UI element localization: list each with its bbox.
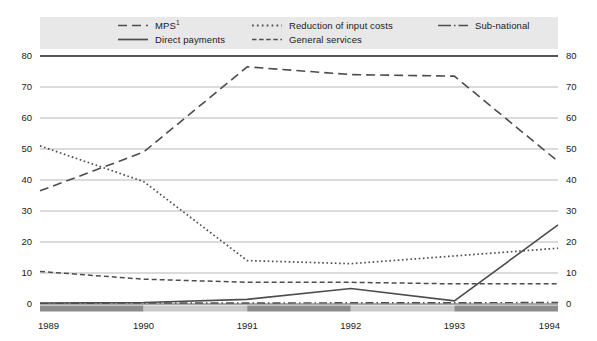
x-axis-tick-label: 1992 bbox=[340, 320, 361, 331]
legend-label-sub-national: Sub-national bbox=[475, 20, 530, 31]
y-axis-labels-right: 01020304050607080 bbox=[566, 50, 577, 309]
x-axis-band bbox=[40, 306, 558, 312]
y-axis-tick-label: 40 bbox=[21, 174, 32, 185]
y-axis-tick-label: 10 bbox=[566, 267, 577, 278]
legend-item-direct-payments: Direct payments bbox=[118, 33, 225, 46]
x-axis-tick-label: 1994 bbox=[539, 320, 560, 331]
y-axis-tick-label: 60 bbox=[21, 112, 32, 123]
legend-item-general-services: General services bbox=[252, 33, 362, 46]
y-axis-tick-label: 20 bbox=[566, 236, 577, 247]
legend-item-reduction-of-input-costs: Reduction of input costs bbox=[252, 19, 393, 32]
dash-dot-line-icon bbox=[438, 21, 468, 30]
chart-series-lines bbox=[40, 67, 558, 304]
dashed-line-icon bbox=[252, 35, 282, 44]
y-axis-tick-label: 70 bbox=[21, 81, 32, 92]
y-axis-tick-label: 80 bbox=[566, 50, 577, 61]
x-axis-labels: 198919901991199219931994 bbox=[38, 320, 560, 331]
chart-svg: 01020304050607080 01020304050607080 1989… bbox=[0, 50, 597, 341]
series-line-reduction-of-input-costs bbox=[40, 146, 558, 264]
legend-item-sub-national: Sub-national bbox=[438, 19, 530, 32]
y-axis-tick-label: 10 bbox=[21, 267, 32, 278]
solid-line-icon bbox=[118, 35, 148, 44]
series-line-sub-national bbox=[40, 302, 558, 303]
y-axis-labels-left: 01020304050607080 bbox=[21, 50, 32, 309]
series-line-direct-payments bbox=[40, 225, 558, 303]
y-axis-tick-label: 30 bbox=[21, 205, 32, 216]
y-axis-tick-label: 40 bbox=[566, 174, 577, 185]
y-axis-tick-label: 60 bbox=[566, 112, 577, 123]
y-axis-tick-label: 50 bbox=[21, 143, 32, 154]
y-axis-tick-label: 80 bbox=[21, 50, 32, 61]
series-line-mps bbox=[40, 67, 558, 191]
x-axis-tick-label: 1990 bbox=[133, 320, 154, 331]
x-axis-tick-label: 1989 bbox=[38, 320, 59, 331]
legend-item-mps: MPS1 bbox=[118, 19, 180, 32]
legend-label-reduction-of-input-costs: Reduction of input costs bbox=[289, 20, 393, 31]
y-axis-tick-label: 30 bbox=[566, 205, 577, 216]
dotted-line-icon bbox=[252, 21, 282, 30]
y-axis-tick-label: 0 bbox=[566, 298, 571, 309]
legend-label-direct-payments: Direct payments bbox=[155, 34, 225, 45]
legend-label-general-services: General services bbox=[289, 34, 362, 45]
chart-figure: MPS1 Direct payments Reduction of input … bbox=[0, 0, 597, 341]
y-axis-tick-label: 0 bbox=[27, 298, 32, 309]
legend-label-mps: MPS1 bbox=[155, 20, 180, 31]
y-axis-tick-label: 20 bbox=[21, 236, 32, 247]
x-axis-tick-label: 1991 bbox=[237, 320, 258, 331]
chart-plot-area: 01020304050607080 01020304050607080 1989… bbox=[0, 50, 597, 341]
x-axis-tick-label: 1993 bbox=[444, 320, 465, 331]
chart-legend: MPS1 Direct payments Reduction of input … bbox=[40, 17, 558, 49]
long-dash-line-icon bbox=[118, 21, 148, 30]
y-axis-tick-label: 70 bbox=[566, 81, 577, 92]
chart-gridlines bbox=[40, 56, 558, 304]
y-axis-tick-label: 50 bbox=[566, 143, 577, 154]
